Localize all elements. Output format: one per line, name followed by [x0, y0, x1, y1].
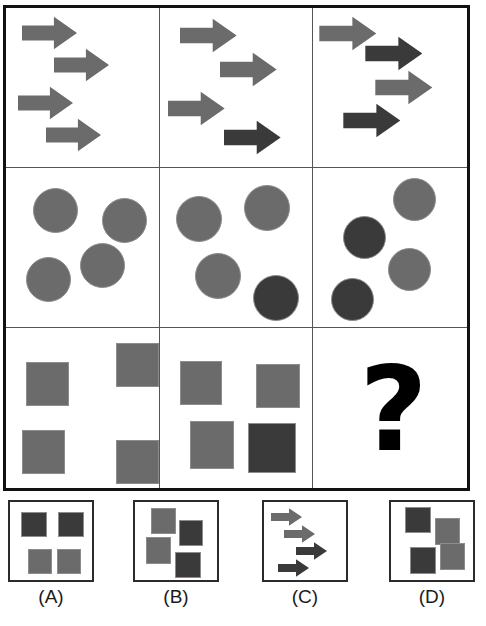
- square-3-shape: [28, 549, 52, 574]
- square-3-shape: [146, 537, 171, 564]
- matrix-cell-r3c2[interactable]: [160, 328, 314, 488]
- square-1-shape: [21, 512, 47, 537]
- answer-option-b[interactable]: (B): [133, 500, 219, 582]
- arrow-1-icon: [180, 18, 237, 53]
- square-4-shape: [175, 552, 201, 578]
- matrix-row-3: ?: [6, 328, 467, 488]
- matrix-cell-r1c1[interactable]: [6, 8, 160, 167]
- arrow-3-icon: [168, 91, 225, 126]
- arrow-3-icon: [375, 70, 432, 105]
- square-2-shape: [58, 512, 84, 537]
- arrow-2-icon: [365, 36, 422, 71]
- circle-3-shape: [195, 253, 241, 299]
- arrow-4-icon: [278, 559, 309, 577]
- square-1-shape: [26, 362, 69, 406]
- square-2-shape: [116, 343, 159, 387]
- square-4-shape: [440, 543, 465, 570]
- analogy-matrix: ?: [3, 5, 470, 491]
- square-3-shape: [22, 430, 65, 474]
- matrix-row-2: [6, 168, 467, 328]
- answer-option-b-box[interactable]: [133, 500, 219, 582]
- arrow-2-icon: [284, 525, 315, 543]
- circle-4-shape: [331, 278, 374, 321]
- arrow-2-icon: [220, 52, 277, 87]
- matrix-cell-r3c1[interactable]: [6, 328, 160, 488]
- answer-option-d[interactable]: (D): [389, 500, 475, 582]
- answer-option-a-box[interactable]: [8, 500, 94, 582]
- answer-options: (A) (B) (C) (D): [0, 500, 486, 626]
- answer-option-c-box[interactable]: [262, 500, 348, 582]
- answer-option-c[interactable]: (C): [262, 500, 348, 582]
- answer-option-d-box[interactable]: [389, 500, 475, 582]
- circle-1-shape: [393, 178, 436, 221]
- arrow-1-icon: [22, 16, 77, 50]
- square-3-shape: [410, 547, 436, 574]
- circle-1-shape: [176, 196, 222, 242]
- square-1-shape: [151, 508, 176, 534]
- answer-option-d-label: (D): [389, 586, 475, 608]
- circle-3-shape: [80, 243, 125, 288]
- circle-2-shape: [244, 185, 290, 231]
- matrix-cell-r2c1[interactable]: [6, 168, 160, 327]
- circle-2-shape: [102, 198, 147, 243]
- circle-1-shape: [33, 188, 78, 233]
- answer-option-c-label: (C): [262, 586, 348, 608]
- missing-cell-question-mark: ?: [359, 350, 427, 468]
- square-4-shape: [57, 549, 81, 574]
- square-2-shape: [256, 364, 300, 408]
- matrix-cell-r1c3[interactable]: [313, 8, 467, 167]
- answer-option-b-label: (B): [133, 586, 219, 608]
- square-3-shape: [190, 421, 234, 469]
- arrow-1-icon: [271, 508, 302, 526]
- answer-option-a[interactable]: (A): [8, 500, 94, 582]
- arrow-2-icon: [54, 48, 109, 82]
- square-2-shape: [435, 518, 460, 545]
- circle-2-shape: [343, 216, 386, 259]
- answer-option-a-label: (A): [8, 586, 94, 608]
- matrix-cell-r2c3[interactable]: [313, 168, 467, 327]
- arrow-3-icon: [296, 542, 327, 560]
- square-1-shape: [180, 361, 222, 405]
- square-4-shape: [116, 440, 159, 484]
- square-1-shape: [405, 507, 431, 533]
- circle-4-shape: [253, 275, 299, 321]
- matrix-cell-r2c2[interactable]: [160, 168, 314, 327]
- square-2-shape: [179, 520, 203, 546]
- arrow-4-icon: [343, 103, 400, 138]
- circle-4-shape: [26, 257, 71, 302]
- arrow-1-icon: [319, 16, 376, 51]
- arrow-4-icon: [224, 120, 281, 155]
- matrix-cell-r3c3[interactable]: ?: [313, 328, 467, 488]
- arrow-4-icon: [46, 118, 101, 152]
- matrix-row-1: [6, 8, 467, 168]
- matrix-cell-r1c2[interactable]: [160, 8, 314, 167]
- square-4-shape: [248, 423, 296, 473]
- arrow-3-icon: [18, 86, 73, 120]
- circle-3-shape: [388, 248, 431, 291]
